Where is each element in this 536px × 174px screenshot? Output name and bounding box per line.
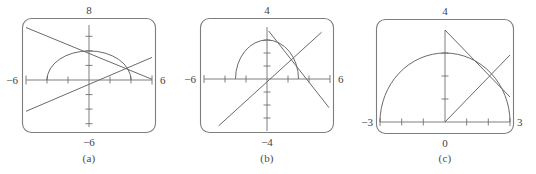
label-right-a: 6 xyxy=(160,74,166,86)
descending-line-b xyxy=(269,31,329,108)
label-bottom-b: −4 xyxy=(261,136,273,148)
ascending-line-c xyxy=(445,55,510,122)
label-top-c: 4 xyxy=(442,5,448,17)
label-top-b: 4 xyxy=(264,4,270,16)
calculator-screen-a: 8 −6 −6 6 xyxy=(0,0,178,150)
label-top-a: 8 xyxy=(86,4,92,16)
panel-caption-c: (c) xyxy=(356,152,534,164)
panel-caption-b: (b) xyxy=(178,152,356,164)
label-bottom-c: 0 xyxy=(442,137,448,149)
label-left-a: −6 xyxy=(6,74,18,86)
label-right-b: 6 xyxy=(338,73,344,85)
label-left-c: −3 xyxy=(361,116,373,128)
graph-svg-a: 8 −6 −6 6 xyxy=(0,0,178,150)
label-bottom-a: −6 xyxy=(83,136,95,148)
graph-svg-b: 4 −4 −6 6 xyxy=(178,0,356,150)
figure-row: 8 −6 −6 6 (a) xyxy=(0,0,536,174)
panel-b: 4 −4 −6 6 (b) xyxy=(178,0,356,174)
label-left-b: −6 xyxy=(184,73,196,85)
panel-caption-a: (a) xyxy=(0,152,178,164)
calculator-screen-b: 4 −4 −6 6 xyxy=(178,0,356,150)
graph-svg-c: 4 0 −3 3 xyxy=(356,0,536,150)
descending-line-c xyxy=(445,30,510,97)
panel-c: 4 0 −3 3 (c) xyxy=(356,0,534,174)
calculator-screen-c: 4 0 −3 3 xyxy=(356,0,534,150)
panel-a: 8 −6 −6 6 (a) xyxy=(0,0,178,174)
label-right-c: 3 xyxy=(517,116,523,128)
